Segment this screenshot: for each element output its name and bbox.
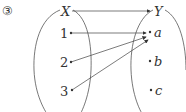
mapping-arrow-3-a: [72, 40, 148, 90]
codomain-element-b: b: [154, 54, 162, 69]
codomain-point-c: [150, 89, 152, 91]
codomain-set-ellipse-right: [165, 10, 186, 70]
domain-set-ellipse-left: [34, 10, 60, 112]
domain-element-1: 1: [60, 26, 68, 41]
domain-element-3: 3: [60, 84, 68, 99]
codomain-element-a: a: [154, 25, 162, 40]
domain-element-2: 2: [60, 55, 68, 70]
codomain-point-b: [149, 60, 151, 62]
codomain-label: Y: [154, 4, 164, 19]
problem-number: ③: [2, 4, 13, 18]
mapping-arrow-2-a: [71, 37, 146, 62]
domain-label: X: [60, 4, 71, 19]
domain-set-ellipse-right: [73, 10, 91, 112]
codomain-point-a: [149, 31, 151, 33]
mapping-diagram: ③ X Y 1 2 3 a b c: [0, 0, 186, 112]
codomain-element-c: c: [155, 83, 163, 98]
